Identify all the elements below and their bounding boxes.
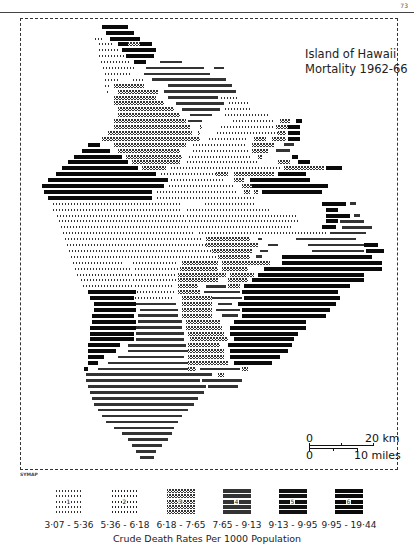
map-cell-class-6 bbox=[242, 314, 326, 318]
map-cell-class-3 bbox=[188, 343, 220, 347]
map-cell-class-1 bbox=[190, 225, 292, 229]
map-cell-class-4 bbox=[268, 244, 278, 247]
map-cell-class-6 bbox=[258, 273, 364, 277]
map-cell-class-1 bbox=[94, 37, 102, 41]
legend-item-class-3: 36·18 - 7·65 bbox=[156, 489, 206, 530]
map-cell-class-6 bbox=[74, 155, 122, 159]
map-cell-class-3 bbox=[280, 119, 290, 123]
map-cell-class-3 bbox=[188, 361, 228, 365]
map-cell-class-4 bbox=[204, 291, 240, 294]
map-cell-class-3 bbox=[186, 320, 220, 324]
map-cell-class-1 bbox=[228, 101, 248, 105]
map-cell-class-6 bbox=[244, 296, 340, 300]
map-cell-class-3 bbox=[222, 267, 248, 271]
map-cell-class-3 bbox=[228, 284, 240, 288]
map-cell-class-4 bbox=[136, 326, 182, 329]
map-cell-class-3 bbox=[180, 267, 218, 271]
map-cell-class-1 bbox=[104, 84, 110, 88]
map-cell-class-1 bbox=[64, 237, 202, 241]
map-cell-class-3 bbox=[118, 113, 180, 117]
map-cell-class-4 bbox=[136, 450, 156, 453]
map-cell-class-1 bbox=[170, 178, 224, 182]
map-cell-class-4 bbox=[256, 255, 262, 258]
map-cell-class-3 bbox=[126, 155, 182, 159]
map-cell-class-3 bbox=[182, 314, 212, 318]
legend-swatch: 4 bbox=[223, 489, 251, 515]
map-cell-class-3 bbox=[102, 137, 200, 141]
map-cell-class-6 bbox=[262, 190, 322, 194]
map-cell-class-1 bbox=[134, 273, 176, 277]
legend-range-label: 3·07 - 5·36 bbox=[44, 520, 93, 530]
map-cell-class-4 bbox=[102, 415, 182, 418]
map-cell-class-1 bbox=[220, 96, 238, 100]
map-cell-class-4 bbox=[160, 61, 182, 64]
map-cell-class-6 bbox=[234, 320, 306, 324]
map-cell-class-1 bbox=[188, 155, 250, 159]
legend-swatch-row bbox=[223, 510, 251, 514]
map-cell-class-3 bbox=[278, 160, 290, 164]
map-title: Island of Hawaii Mortality 1962-66 bbox=[305, 47, 408, 77]
legend-class-code: 5 bbox=[290, 498, 295, 505]
map-cell-class-6 bbox=[84, 367, 88, 371]
map-cell-class-4 bbox=[98, 368, 188, 371]
map-cell-class-3 bbox=[234, 172, 274, 176]
map-cell-class-6 bbox=[94, 302, 136, 306]
map-cell-class-3 bbox=[230, 273, 254, 277]
map-cell-class-4 bbox=[218, 303, 232, 306]
map-cell-class-3 bbox=[118, 107, 174, 111]
map-cell-class-1 bbox=[80, 278, 132, 282]
map-cell-class-1 bbox=[134, 267, 178, 271]
legend-swatch-row bbox=[223, 505, 251, 509]
map-cell-class-1 bbox=[52, 202, 180, 206]
map-cell-class-4 bbox=[212, 297, 242, 300]
map-cell-class-4 bbox=[144, 73, 210, 76]
map-cell-class-6 bbox=[264, 267, 382, 271]
map-cell-class-4 bbox=[188, 120, 202, 123]
map-cell-class-3 bbox=[212, 249, 252, 253]
map-cell-class-4 bbox=[202, 379, 242, 382]
map-cell-class-1 bbox=[82, 284, 134, 288]
map-cell-class-1 bbox=[204, 202, 256, 206]
legend-item-class-2: 25·36 - 6·18 bbox=[100, 489, 150, 530]
map-cell-class-1 bbox=[100, 60, 130, 64]
map-cell-class-4 bbox=[118, 356, 184, 359]
map-cell-class-6 bbox=[134, 60, 146, 64]
map-cell-class-4 bbox=[340, 220, 364, 223]
map-cell-class-3 bbox=[114, 125, 190, 129]
map-cell-class-6 bbox=[230, 332, 298, 336]
map-cell-class-3 bbox=[186, 326, 222, 330]
map-cell-class-3 bbox=[244, 190, 250, 194]
map-cell-class-4 bbox=[276, 149, 290, 152]
map-cell-class-4 bbox=[94, 403, 194, 406]
map-cell-class-4 bbox=[106, 421, 178, 424]
map-cell-class-3 bbox=[206, 237, 250, 241]
map-cell-class-1 bbox=[216, 131, 278, 135]
map-cell-class-4 bbox=[138, 320, 182, 323]
map-cell-class-1 bbox=[76, 273, 132, 277]
legend-class-code: 3 bbox=[178, 498, 183, 505]
scale-tick-20km bbox=[373, 443, 374, 446]
map-cell-class-6 bbox=[92, 320, 136, 324]
map-cell-class-6 bbox=[252, 184, 328, 188]
map-cell-class-3 bbox=[188, 355, 224, 359]
map-cell-class-6 bbox=[48, 178, 168, 182]
map-cell-class-4 bbox=[258, 238, 262, 241]
legend-range-label: 9·13 - 9·95 bbox=[268, 520, 317, 530]
map-cell-class-3 bbox=[272, 137, 286, 141]
map-cell-class-6 bbox=[88, 143, 100, 147]
map-cell-class-6 bbox=[234, 337, 294, 341]
map-cell-class-4 bbox=[128, 344, 186, 347]
map-cell-class-4 bbox=[216, 309, 240, 312]
map-cell-class-3 bbox=[108, 131, 192, 135]
scale-tick-5mi bbox=[333, 448, 334, 451]
map-cell-class-6 bbox=[92, 314, 134, 318]
map-cell-class-4 bbox=[308, 244, 364, 247]
map-cell-class-3 bbox=[178, 278, 218, 282]
map-cell-class-1 bbox=[136, 290, 176, 294]
map-cell-class-6 bbox=[42, 184, 164, 188]
map-cell-class-3 bbox=[182, 296, 212, 300]
map-cell-class-1 bbox=[98, 48, 120, 52]
legend-swatch-row bbox=[279, 510, 307, 514]
legend-range-label: 7·65 - 9·13 bbox=[212, 520, 261, 530]
map-cell-class-3 bbox=[242, 367, 248, 371]
